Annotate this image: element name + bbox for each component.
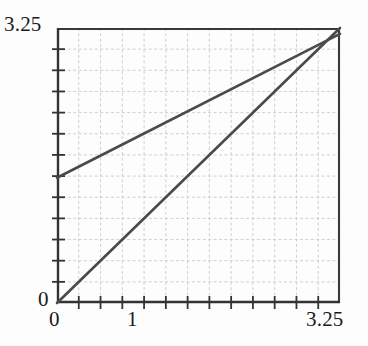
- x-axis-mid-label: 1: [127, 307, 138, 332]
- x-axis-max-label: 3.25: [306, 307, 344, 332]
- x-axis-zero-label: 0: [49, 307, 60, 332]
- y-axis-max-label: 3.25: [4, 12, 42, 37]
- plot-canvas: [0, 0, 368, 346]
- y-axis-zero-label: 0: [38, 287, 49, 312]
- chart-figure: 3.25 0 0 1 3.25: [0, 0, 368, 346]
